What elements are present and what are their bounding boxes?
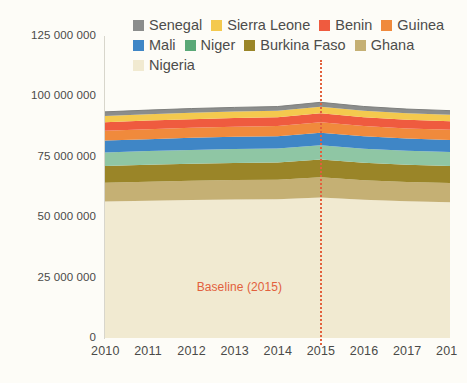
legend-item[interactable]: Senegal xyxy=(133,16,202,34)
y-axis-tick-label: 25 000 000 xyxy=(0,272,96,284)
legend-item-label: Senegal xyxy=(149,18,202,33)
y-axis-tick-label: 125 000 000 xyxy=(0,30,96,42)
legend-item[interactable]: Guinea xyxy=(381,16,444,34)
chart-page: 025 000 00050 000 00075 000 000100 000 0… xyxy=(0,0,467,383)
x-axis-tick-label: 2015 xyxy=(307,344,336,358)
x-axis-tick-label: 2010 xyxy=(91,344,120,358)
x-axis-tick-label: 2014 xyxy=(264,344,293,358)
x-axis-tick-label: 2016 xyxy=(350,344,379,358)
baseline-marker-line xyxy=(320,60,322,345)
y-axis-tick-label: 0 xyxy=(0,332,96,344)
legend-item[interactable]: Sierra Leone xyxy=(211,16,310,34)
legend-swatch-icon xyxy=(211,20,222,31)
x-axis-tick-label: 2011 xyxy=(134,344,162,358)
y-axis-tick-label: 100 000 000 xyxy=(0,90,96,102)
y-axis-tick-label: 50 000 000 xyxy=(0,211,96,223)
legend-item-label: Sierra Leone xyxy=(227,18,310,33)
y-axis-labels: 025 000 00050 000 00075 000 000100 000 0… xyxy=(0,0,96,383)
x-axis-tick-label: 2012 xyxy=(177,344,206,358)
legend-swatch-icon xyxy=(133,20,144,31)
legend-swatch-icon xyxy=(381,20,392,31)
legend-item-label: Benin xyxy=(335,18,372,33)
legend-item-label: Guinea xyxy=(397,18,444,33)
legend-item[interactable]: Benin xyxy=(319,16,372,34)
x-axis-tick-label: 2017 xyxy=(393,344,422,358)
x-axis-tick-label: 201 xyxy=(436,344,457,358)
x-axis-tick-label: 2013 xyxy=(220,344,249,358)
x-axis-labels: 20102011201220132014201520162017201 xyxy=(105,344,467,366)
legend-swatch-icon xyxy=(319,20,330,31)
baseline-marker-label: Baseline (2015) xyxy=(197,280,283,294)
y-axis-tick-label: 75 000 000 xyxy=(0,151,96,163)
area-series-nigeria xyxy=(105,197,450,338)
